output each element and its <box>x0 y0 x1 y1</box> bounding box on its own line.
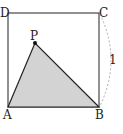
label-p: P <box>30 29 38 43</box>
label-b: B <box>95 108 104 122</box>
label-c: C <box>99 6 108 20</box>
side-length-label: 1 <box>109 53 117 67</box>
label-a: A <box>2 108 12 122</box>
geometry-diagram: D C P A B 1 <box>0 0 123 134</box>
triangle-abp <box>8 43 99 107</box>
label-d: D <box>0 6 10 20</box>
